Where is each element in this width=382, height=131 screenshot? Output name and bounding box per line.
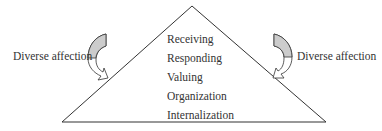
left-label: Diverse affection <box>13 50 92 63</box>
level-internalization: Internalization <box>167 109 234 122</box>
level-receiving: Receiving <box>167 33 214 46</box>
right-label: Diverse affection <box>297 50 376 63</box>
level-valuing: Valuing <box>167 71 203 84</box>
right-curved-arrow-icon <box>273 34 292 78</box>
level-responding: Responding <box>167 52 222 65</box>
level-organization: Organization <box>167 90 227 103</box>
